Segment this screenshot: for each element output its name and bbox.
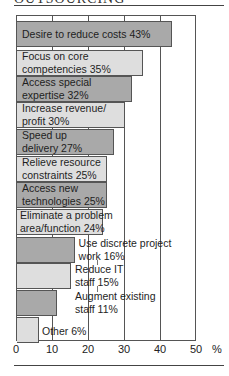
bar-label: Access specialexpertise 32% xyxy=(22,76,91,102)
bar-label-line: constraints 25% xyxy=(22,169,101,182)
bar-label-line: Access special xyxy=(22,76,91,89)
bar-label-line: Use discrete project xyxy=(79,237,172,250)
bar-label-line: work 16% xyxy=(79,250,172,263)
bar-label: Other 6% xyxy=(42,325,86,338)
bar-label-line: Desire to reduce costs 43% xyxy=(22,28,150,41)
bar-label: Access newtechnologies 25% xyxy=(22,182,105,208)
bar-label-line: Focus on core xyxy=(22,50,111,63)
bar-label-line: Eliminate a problem xyxy=(20,209,113,222)
bar-label-line: Augment existing xyxy=(75,290,156,303)
bar-label-line: Speed up xyxy=(22,129,82,142)
bar-label: Desire to reduce costs 43% xyxy=(22,28,150,41)
bar xyxy=(17,290,57,316)
plot-area: Desire to reduce costs 43%Focus on corec… xyxy=(16,15,196,341)
bar-label: Reduce ITstaff 15% xyxy=(75,263,123,289)
x-tick-label: 40 xyxy=(154,343,166,355)
leader-line xyxy=(97,286,98,292)
x-tick-label: 10 xyxy=(46,343,58,355)
bar xyxy=(17,263,71,289)
bar-label-line: staff 11% xyxy=(75,303,156,316)
bar-label-line: Other 6% xyxy=(42,325,86,338)
x-tick-label: 30 xyxy=(118,343,130,355)
bar-label: Eliminate a problemarea/function 24% xyxy=(20,209,113,235)
x-tick-label: 20 xyxy=(82,343,94,355)
bar-label: Focus on corecompetencies 35% xyxy=(22,50,111,76)
bar-label-line: competencies 35% xyxy=(22,63,111,76)
bar-label-line: delivery 27% xyxy=(22,142,82,155)
bar-label: Use discrete projectwork 16% xyxy=(79,237,172,263)
bar-label-line: area/function 24% xyxy=(20,222,113,235)
bottom-rule xyxy=(14,365,224,366)
top-rule xyxy=(14,5,224,6)
bar-label: Increase revenue/profit 30% xyxy=(22,102,106,128)
bar xyxy=(17,237,75,263)
bar-label-line: Relieve resource xyxy=(22,156,101,169)
bar-label-line: staff 15% xyxy=(75,276,123,289)
bar-label-line: profit 30% xyxy=(22,115,106,128)
x-tick-label: 50 xyxy=(190,343,202,355)
bar-label: Augment existingstaff 11% xyxy=(75,290,156,316)
bar-label: Speed updelivery 27% xyxy=(22,129,82,155)
bar xyxy=(17,317,39,343)
unit-label: % xyxy=(212,343,222,355)
bar-label: Relieve resourceconstraints 25% xyxy=(22,156,101,182)
bar-label-line: Reduce IT xyxy=(75,263,123,276)
leader-line xyxy=(97,260,98,265)
bar-label-line: technologies 25% xyxy=(22,195,105,208)
x-tick-label: 0 xyxy=(13,343,19,355)
bar-label-line: Increase revenue/ xyxy=(22,102,106,115)
bar-label-line: Access new xyxy=(22,182,105,195)
gridline xyxy=(160,16,161,340)
bar-label-line: expertise 32% xyxy=(22,89,91,102)
